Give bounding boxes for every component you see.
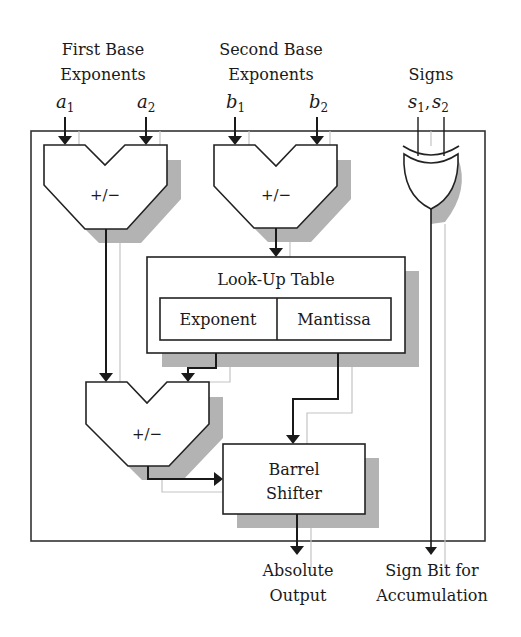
lut-mantissa-cell: Mantissa (297, 310, 371, 329)
lut-title: Look-Up Table (217, 270, 334, 289)
barrel-label-line1: Barrel (268, 460, 319, 479)
alu1-label: +/− (90, 186, 120, 204)
second-base-title-line2: Exponents (228, 65, 313, 84)
svg-text:Sign Bit for: Sign Bit for (385, 561, 479, 580)
svg-text:Accumulation: Accumulation (375, 586, 487, 605)
second-base-exponents-label: Second Base Exponents (219, 40, 323, 84)
barrel-shifter: Barrel Shifter (223, 444, 365, 514)
second-base-title-line1: Second Base (219, 40, 323, 59)
absolute-output-label: Absolute Output (262, 561, 334, 605)
sign-bit-label: Sign Bit for Accumulation (375, 561, 487, 605)
first-base-exponents-label: First Base Exponents (60, 40, 145, 84)
var-b2: b2 (309, 91, 328, 115)
alu3-label: +/− (132, 425, 162, 443)
var-s1-s2: s1,s2 (408, 91, 449, 115)
look-up-table: Look-Up Table Exponent Mantissa (147, 257, 405, 353)
logarithmic-multiplier-diagram: First Base Exponents Second Base Exponen… (0, 0, 521, 637)
barrel-label-line2: Shifter (266, 484, 322, 503)
first-base-title-line2: Exponents (60, 65, 145, 84)
var-a2: a2 (137, 91, 155, 115)
first-base-title-line1: First Base (62, 40, 145, 59)
var-a1: a1 (56, 91, 74, 115)
svg-text:Output: Output (270, 586, 327, 605)
alu2-label: +/− (261, 186, 291, 204)
lut-exponent-cell: Exponent (179, 310, 257, 329)
svg-text:Absolute: Absolute (262, 561, 334, 580)
signs-label: Signs (409, 65, 454, 84)
var-b1: b1 (226, 91, 245, 115)
